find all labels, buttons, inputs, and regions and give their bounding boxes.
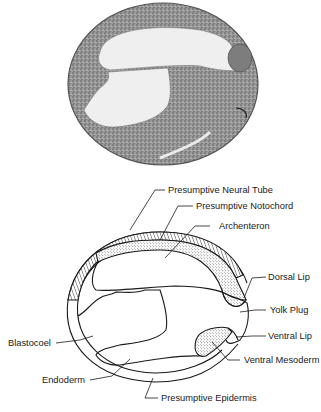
label-neural-tube: Presumptive Neural Tube	[168, 185, 273, 195]
embryo-figure: Presumptive Neural Tube Presumptive Noto…	[0, 0, 321, 412]
label-notochord: Presumptive Notochord	[196, 201, 293, 211]
label-yolk-plug: Yolk Plug	[270, 305, 308, 315]
leader-yolk-plug	[240, 310, 266, 312]
label-endoderm: Endoderm	[42, 375, 85, 385]
leader-neural-tube	[130, 190, 165, 230]
label-ventral-lip: Ventral Lip	[268, 331, 312, 341]
leader-ventral-lip	[236, 336, 266, 337]
labels: Presumptive Neural Tube Presumptive Noto…	[8, 185, 320, 403]
embryo-schematic	[67, 232, 248, 382]
label-blastocoel: Blastocoel	[8, 338, 51, 348]
leader-dorsal-lip	[244, 277, 266, 298]
label-epidermis: Presumptive Epidermis	[161, 393, 257, 403]
label-dorsal-lip: Dorsal Lip	[268, 272, 310, 282]
micrograph-dorsal-lip	[228, 44, 252, 72]
embryo-micrograph	[68, 3, 258, 165]
label-archenteron: Archenteron	[219, 221, 270, 231]
endoderm-boundary	[78, 290, 210, 365]
label-ventral-mesoderm: Ventral Mesoderm	[244, 355, 320, 365]
